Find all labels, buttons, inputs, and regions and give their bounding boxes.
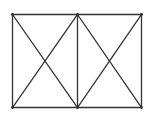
- vertex-bottom-left: [11, 106, 14, 109]
- geometric-diagram: [0, 0, 153, 120]
- vertex-bottom-right: [140, 106, 143, 109]
- diagram-segments: [13, 15, 142, 108]
- vertex-bottom-mid: [76, 106, 79, 109]
- vertex-top-right: [140, 13, 143, 16]
- vertex-top-left: [11, 13, 14, 16]
- vertex-top-mid: [76, 13, 79, 16]
